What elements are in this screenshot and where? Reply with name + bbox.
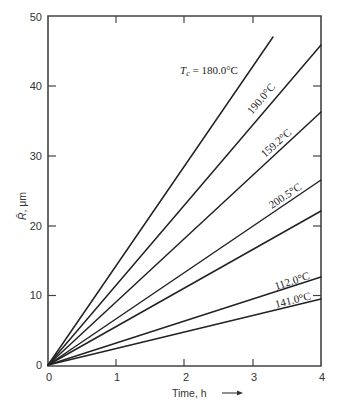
y-tick-20: 20 [30, 220, 42, 232]
line-159-2 [48, 112, 321, 365]
y-axis-unit: , μm [16, 192, 28, 213]
y-tick-labels: 0 10 20 30 40 50 [30, 11, 42, 371]
y-tick-30: 30 [30, 150, 42, 162]
label-141-0: 141.0°C [274, 289, 312, 309]
x-tick-3: 3 [251, 371, 257, 383]
svg-text:R̄, μm: R̄, μm [16, 192, 28, 220]
x-tick-2: 2 [183, 371, 189, 383]
line-200-5 [48, 180, 321, 365]
line-chart: 0 10 20 30 40 50 0 1 2 3 4 Time, h R̄, μ… [0, 0, 340, 410]
x-axis-title: Time, h [172, 387, 243, 399]
x-tick-0: 0 [46, 371, 52, 383]
line-180-0 [48, 37, 273, 365]
y-tick-10: 10 [30, 289, 42, 301]
label-112-0: 112.0°C [273, 269, 311, 292]
y-axis-title: R̄, μm [16, 192, 28, 220]
y-tick-0: 0 [36, 359, 42, 371]
y-tick-40: 40 [30, 80, 42, 92]
x-axis-title-text: Time, h [172, 387, 207, 399]
x-tick-4: 4 [319, 371, 325, 383]
x-tick-1: 1 [114, 371, 120, 383]
series-labels: Tc = 180.0°C 190.0°C 159.2°C 200.5°C 150… [0, 0, 312, 310]
label-150-3: 150.3°C [0, 0, 37, 2]
y-tick-50: 50 [30, 11, 42, 23]
arrow-right-icon [222, 391, 243, 396]
label-180-0: Tc = 180.0°C [180, 64, 238, 78]
x-tick-labels: 0 1 2 3 4 [46, 371, 325, 383]
label-190-0: 190.0°C [244, 81, 277, 117]
